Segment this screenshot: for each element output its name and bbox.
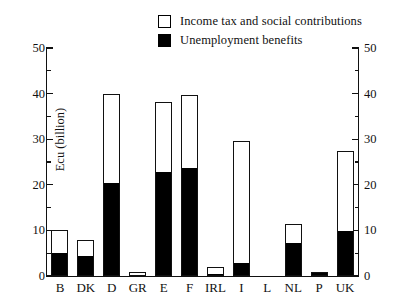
bar-slot-d: [99, 48, 125, 276]
bar-segment-income-tax-d: [103, 94, 120, 183]
legend-swatch-income-tax: [158, 15, 171, 28]
bar-slot-gr: [125, 48, 151, 276]
bar-segment-income-tax-dk: [77, 240, 94, 257]
y-tick-label-left-50: 50: [5, 42, 45, 55]
legend-label-unemployment-benefits: Unemployment benefits: [180, 34, 303, 47]
bar-slot-i: [228, 48, 254, 276]
y-tick-label-left-10: 10: [5, 224, 45, 237]
stacked-bar-irl[interactable]: [207, 267, 224, 276]
y-tick-label-left-30: 30: [5, 133, 45, 146]
x-axis-label-d: D: [99, 281, 125, 295]
y-tick-label-left-40: 40: [5, 88, 45, 101]
bar-segment-income-tax-i: [233, 141, 250, 263]
bar-slot-f: [177, 48, 203, 276]
x-axis-label-i: I: [228, 281, 254, 295]
bar-segment-unemployment-nl: [285, 243, 302, 276]
x-axis-label-irl: IRL: [203, 281, 229, 295]
stacked-bar-uk[interactable]: [337, 151, 354, 276]
bar-slot-b: [47, 48, 73, 276]
x-axis-label-gr: GR: [125, 281, 151, 295]
bar-segment-unemployment-p: [311, 273, 328, 276]
bar-segment-unemployment-f: [181, 168, 198, 276]
y-tick-label-right-0: 0: [364, 270, 398, 283]
x-axis-label-p: P: [306, 281, 332, 295]
y-tick-label-left-20: 20: [5, 179, 45, 192]
bar-slot-p: [306, 48, 332, 276]
bar-segment-income-tax-nl: [285, 224, 302, 243]
plot-area: 01020304050 01020304050 Ecu (billion): [46, 48, 359, 277]
stacked-bar-f[interactable]: [181, 95, 198, 276]
bar-series-container: [47, 48, 358, 276]
stacked-bar-i[interactable]: [233, 141, 250, 276]
x-axis-label-nl: NL: [280, 281, 306, 295]
y-tick-label-right-50: 50: [364, 42, 398, 55]
x-axis-label-dk: DK: [73, 281, 99, 295]
stacked-bar-b[interactable]: [51, 230, 68, 276]
stacked-bar-p[interactable]: [311, 272, 328, 276]
bar-segment-income-tax-uk: [337, 151, 354, 232]
bar-slot-uk: [332, 48, 358, 276]
stacked-bar-d[interactable]: [103, 94, 120, 276]
y-tick-label-right-20: 20: [364, 179, 398, 192]
y-tick-label-right-10: 10: [364, 224, 398, 237]
bar-slot-dk: [73, 48, 99, 276]
x-axis-label-b: B: [47, 281, 73, 295]
chart-legend: Income tax and social contributions Unem…: [158, 12, 394, 50]
bar-segment-income-tax-e: [155, 102, 172, 171]
bar-segment-income-tax-b: [51, 230, 68, 253]
x-axis-label-l: L: [254, 281, 280, 295]
legend-item-income-tax: Income tax and social contributions: [158, 12, 394, 31]
stacked-bar-e[interactable]: [155, 102, 172, 276]
bar-segment-unemployment-gr: [129, 275, 146, 277]
bar-segment-unemployment-uk: [337, 231, 354, 276]
bar-segment-unemployment-d: [103, 183, 120, 276]
bar-slot-nl: [280, 48, 306, 276]
stacked-bar-nl[interactable]: [285, 224, 302, 276]
x-axis-label-e: E: [151, 281, 177, 295]
bar-segment-income-tax-f: [181, 95, 198, 169]
stacked-bar-gr[interactable]: [129, 272, 146, 276]
x-axis-labels: BDKDGREFIRLILNLPUK: [47, 281, 358, 295]
y-tick-label-left-0: 0: [5, 270, 45, 283]
bar-slot-irl: [203, 48, 229, 276]
chart-figure: Income tax and social contributions Unem…: [0, 0, 398, 308]
bar-segment-unemployment-dk: [77, 256, 94, 276]
bar-segment-unemployment-i: [233, 263, 250, 276]
legend-swatch-unemployment-benefits: [158, 34, 171, 47]
y-tick-label-right-40: 40: [364, 88, 398, 101]
bar-slot-e: [151, 48, 177, 276]
stacked-bar-dk[interactable]: [77, 240, 94, 276]
bar-segment-unemployment-b: [51, 253, 68, 276]
bar-slot-l: [254, 48, 280, 276]
legend-label-income-tax: Income tax and social contributions: [180, 15, 362, 28]
y-tick-label-right-30: 30: [364, 133, 398, 146]
bar-segment-unemployment-e: [155, 172, 172, 276]
x-axis-label-f: F: [177, 281, 203, 295]
x-axis-label-uk: UK: [332, 281, 358, 295]
bar-segment-unemployment-irl: [207, 274, 224, 276]
